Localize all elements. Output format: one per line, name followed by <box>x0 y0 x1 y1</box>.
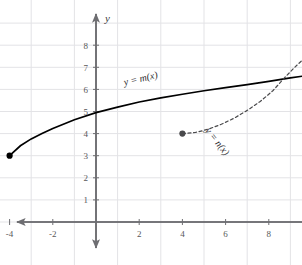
x-tick-label: -4 <box>6 229 14 239</box>
coordinate-plane: -4-2246810121412345678 xy y = m(x)y = n(… <box>0 0 302 265</box>
curves <box>6 29 302 159</box>
y-tick-label: 3 <box>84 151 89 161</box>
curve-equation-label: y = m(x) <box>122 69 160 89</box>
y-tick-label: 8 <box>84 41 89 51</box>
x-tick-label: 8 <box>267 229 272 239</box>
y-tick-label: 1 <box>84 195 89 205</box>
axes <box>10 14 302 248</box>
curve-annotations: y = m(x)y = n(x) <box>122 69 233 159</box>
x-tick-label: -2 <box>49 229 57 239</box>
curve-endpoint-dot <box>179 131 185 137</box>
curve-equation-label: y = n(x) <box>202 124 232 158</box>
x-tick-label: 4 <box>180 229 185 239</box>
curve-endpoint-dot <box>6 153 12 159</box>
graph-figure: -4-2246810121412345678 xy y = m(x)y = n(… <box>0 0 302 265</box>
y-tick-label: 2 <box>84 173 89 183</box>
y-tick-label: 6 <box>84 85 89 95</box>
y-tick-label: 4 <box>84 129 89 139</box>
axis-names: xy <box>104 12 302 216</box>
y-axis-label: y <box>104 12 110 24</box>
x-tick-label: 2 <box>137 229 142 239</box>
curve-n-dashed <box>182 29 302 134</box>
y-tick-label: 7 <box>84 63 89 73</box>
x-tick-label: 6 <box>223 229 228 239</box>
